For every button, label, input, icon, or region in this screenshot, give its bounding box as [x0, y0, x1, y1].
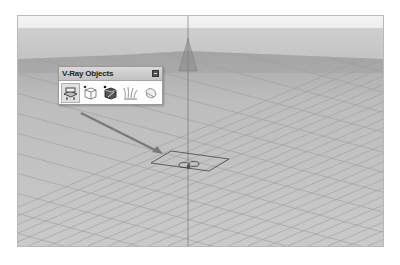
mesh-clipper-button[interactable] — [141, 83, 160, 103]
infinite-plane-icon — [62, 85, 79, 101]
close-icon[interactable] — [152, 70, 159, 77]
toolbar-title: V-Ray Objects — [62, 69, 113, 78]
proxy-import-icon — [102, 85, 119, 101]
toolbar-title-bar[interactable]: V-Ray Objects — [59, 67, 162, 81]
proxy-import-button[interactable] — [101, 83, 120, 103]
toolbar-buttons — [59, 81, 162, 105]
fur-icon — [122, 85, 139, 101]
proxy-export-icon — [82, 85, 99, 101]
infinite-plane-button[interactable] — [61, 83, 80, 103]
mesh-clipper-icon — [142, 85, 159, 101]
proxy-export-button[interactable] — [81, 83, 100, 103]
fur-button[interactable] — [121, 83, 140, 103]
ground-grid — [18, 16, 384, 247]
3d-viewport[interactable] — [17, 15, 384, 247]
vray-objects-toolbar[interactable]: V-Ray Objects — [58, 66, 163, 105]
